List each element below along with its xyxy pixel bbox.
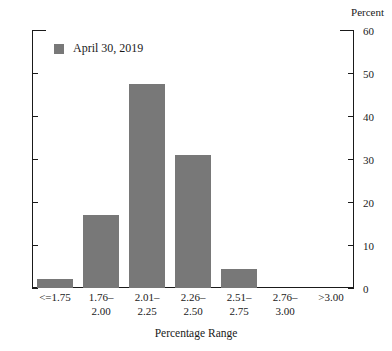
x-axis-tick-label-line2: 2.00: [78, 305, 124, 319]
x-axis-tick-label-line1: 2.76–: [273, 291, 298, 303]
x-axis-tick-label: 2.76–3.00: [262, 291, 308, 318]
bar: [175, 155, 211, 288]
x-axis-tick-label-line1: <=1.75: [39, 291, 71, 303]
y-axis-tick-label: 10: [363, 241, 374, 252]
y-axis-tick-label: 50: [363, 69, 374, 80]
y-axis-tick-right: 0: [348, 288, 354, 289]
x-axis-tick-labels: <=1.751.76–2.002.01–2.252.26–2.502.51–2.…: [32, 291, 354, 318]
bar-slot: [262, 30, 308, 288]
legend-label: April 30, 2019: [73, 42, 143, 55]
x-axis-tick-label-line1: 2.26–: [181, 291, 206, 303]
bar-slot: [124, 30, 170, 288]
x-axis-tick-label-line2: 2.25: [124, 305, 170, 319]
plot-area: 0102030405060 April 30, 2019: [32, 30, 354, 288]
y-axis-tick-label: 30: [363, 155, 374, 166]
x-axis-tick-label: >3.00: [308, 291, 354, 318]
bar-slot: [32, 30, 78, 288]
bar-slot: [308, 30, 354, 288]
x-axis-tick-label-line1: 2.51–: [227, 291, 252, 303]
bar-slot: [78, 30, 124, 288]
bar: [37, 279, 73, 288]
bar: [83, 215, 119, 288]
x-axis-tick-label: 2.01–2.25: [124, 291, 170, 318]
x-axis-tick-label-line1: 2.01–: [135, 291, 160, 303]
x-axis-tick-label-line1: >3.00: [318, 291, 343, 303]
legend-swatch: [54, 44, 64, 54]
x-axis-tick-label-line2: 2.75: [216, 305, 262, 319]
y-axis-unit-label: Percent: [351, 6, 384, 18]
x-axis-tick-label: 1.76–2.00: [78, 291, 124, 318]
bar-chart: Percent 0102030405060 April 30, 2019 <=1…: [0, 0, 392, 351]
y-axis-tick-label: 60: [363, 26, 374, 37]
x-axis-tick-label: <=1.75: [32, 291, 78, 318]
x-axis-tick-label: 2.51–2.75: [216, 291, 262, 318]
x-axis-tick-label-line1: 1.76–: [89, 291, 114, 303]
x-axis-title: Percentage Range: [0, 327, 392, 340]
bar-slot: [216, 30, 262, 288]
y-axis-tick-label: 0: [363, 284, 369, 295]
x-axis-tick-label: 2.26–2.50: [170, 291, 216, 318]
y-axis-tick-label: 40: [363, 112, 374, 123]
x-axis-tick-label-line2: 2.50: [170, 305, 216, 319]
chart-legend: April 30, 2019: [54, 42, 143, 55]
bars-layer: [32, 30, 354, 288]
y-axis-tick-label: 20: [363, 198, 374, 209]
bar: [129, 84, 165, 288]
bar: [221, 269, 257, 288]
bar-slot: [170, 30, 216, 288]
x-axis-tick-label-line2: 3.00: [262, 305, 308, 319]
y-axis-tick-left: [32, 288, 38, 289]
